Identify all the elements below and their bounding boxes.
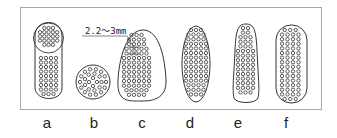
shape-c [118, 30, 166, 101]
shape-a [34, 23, 64, 99]
shape-b [76, 65, 110, 99]
label-e: e [228, 114, 248, 131]
label-b: b [84, 114, 104, 131]
dimension-label: 2.2～3mm [85, 24, 127, 37]
shape-f [276, 25, 307, 103]
label-d: d [180, 114, 200, 131]
label-f: f [276, 114, 296, 131]
label-c: c [132, 114, 152, 131]
shape-d [182, 26, 210, 102]
shape-e [233, 24, 259, 103]
dimension-annotation [82, 36, 140, 54]
label-a: a [37, 114, 57, 131]
